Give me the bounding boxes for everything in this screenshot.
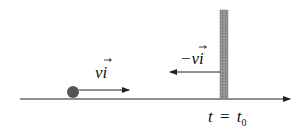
time-variable: t [208, 107, 213, 126]
wall-velocity-label: −vi [180, 50, 204, 67]
vector-hat-ball [104, 59, 112, 62]
time-subscript: 0 [242, 117, 247, 128]
ball-velocity-label: vi [95, 64, 107, 81]
equals-sign: = [220, 107, 230, 126]
ball [67, 86, 79, 98]
time-label: t = t0 [208, 108, 247, 128]
diagram-canvas [0, 0, 308, 132]
wall [220, 10, 228, 99]
